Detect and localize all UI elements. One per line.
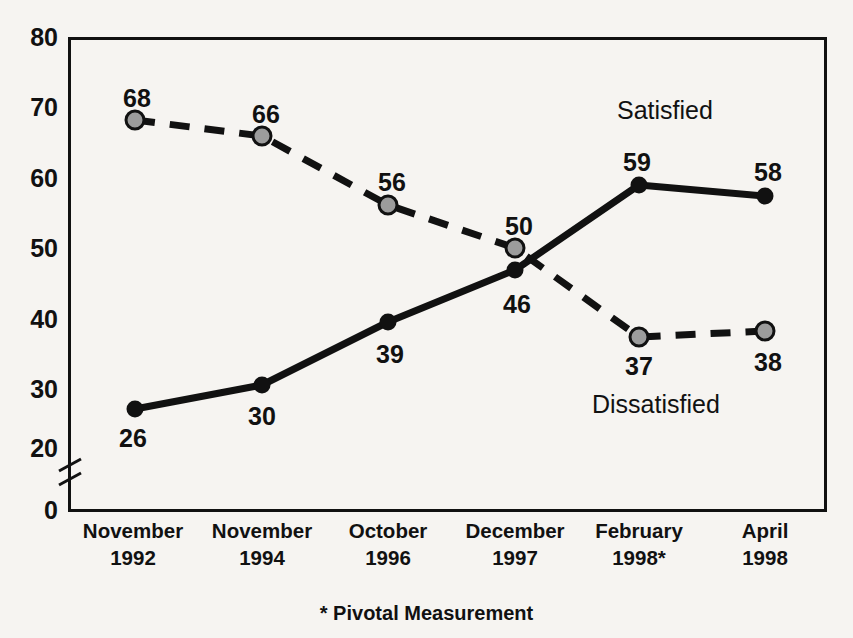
series-label-dissatisfied: Dissatisfied	[592, 390, 720, 419]
value-label-dissatisfied-3: 50	[505, 212, 533, 241]
data-point-dissatisfied-0	[126, 111, 144, 129]
data-point-satisfied-5	[757, 188, 774, 205]
data-point-satisfied-2	[380, 314, 397, 331]
value-label-dissatisfied-1: 66	[252, 100, 280, 129]
x-tick-5: April 1998	[690, 517, 840, 571]
data-point-dissatisfied-2	[379, 196, 397, 214]
value-label-satisfied-3: 46	[503, 290, 531, 319]
data-point-dissatisfied-1	[253, 127, 271, 145]
value-label-dissatisfied-4: 37	[625, 352, 653, 381]
data-point-dissatisfied-4	[630, 328, 648, 346]
value-label-satisfied-2: 39	[376, 340, 404, 369]
series-line-satisfied	[135, 185, 765, 409]
data-point-satisfied-3	[507, 262, 524, 279]
line-chart: 80 70 60 50 40 30 20 0 68 66 56 50 37 38	[0, 0, 853, 638]
data-point-dissatisfied-5	[756, 322, 774, 340]
value-label-dissatisfied-0: 68	[123, 84, 151, 113]
x-tick-0: November 1992	[58, 517, 208, 571]
value-label-satisfied-1: 30	[248, 402, 276, 431]
value-label-dissatisfied-5: 38	[754, 348, 782, 377]
data-point-satisfied-4	[631, 177, 648, 194]
value-label-dissatisfied-2: 56	[378, 168, 406, 197]
value-label-satisfied-5: 58	[754, 158, 782, 187]
data-point-satisfied-0	[127, 401, 144, 418]
value-label-satisfied-4: 59	[623, 148, 651, 177]
value-label-satisfied-0: 26	[119, 424, 147, 453]
x-axis-labels: November 1992 November 1994 October 1996…	[68, 517, 827, 575]
series-label-satisfied: Satisfied	[617, 96, 713, 125]
data-point-satisfied-1	[254, 377, 271, 394]
chart-footnote: * Pivotal Measurement	[0, 602, 853, 625]
data-point-dissatisfied-3	[506, 239, 524, 257]
series-line-dissatisfied	[135, 120, 765, 337]
